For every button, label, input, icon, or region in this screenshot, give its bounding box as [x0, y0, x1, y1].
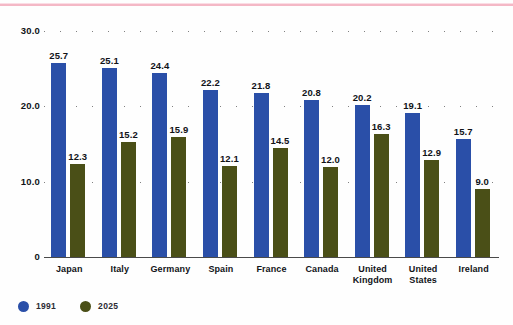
bar-value-label: 14.5: [267, 135, 294, 146]
bar-value-label: 20.8: [298, 87, 325, 98]
bar-italy-2025: [121, 142, 136, 257]
y-axis-tick-label: 0: [0, 251, 40, 262]
x-axis-line: [44, 257, 499, 258]
bar-france-2025: [273, 148, 288, 257]
bar-japan-2025: [70, 164, 85, 257]
bar-spain-2025: [222, 166, 237, 257]
legend-label: 2025: [98, 301, 118, 311]
bar-value-label: 12.9: [418, 147, 445, 158]
bar-canada-2025: [323, 167, 338, 257]
bar-value-label: 12.0: [317, 154, 344, 165]
bar-germany-2025: [171, 137, 186, 257]
bar-italy-1991: [102, 68, 117, 257]
bar-value-label: 21.8: [248, 80, 275, 91]
legend-swatch-icon: [18, 301, 29, 312]
y-axis-tick-label: 30.0: [0, 25, 40, 36]
bar-spain-1991: [203, 90, 218, 257]
bar-value-label: 22.2: [197, 77, 224, 88]
bar-value-label: 24.4: [146, 60, 173, 71]
bar-value-label: 20.2: [349, 92, 376, 103]
bar-value-label: 16.3: [368, 121, 395, 132]
bar-united-states-1991: [405, 113, 420, 257]
bar-value-label: 15.2: [115, 129, 142, 140]
bar-value-label: 9.0: [469, 176, 496, 187]
bar-value-label: 25.1: [96, 55, 123, 66]
bar-value-label: 25.7: [45, 50, 72, 61]
x-axis-category-label: Ireland: [442, 264, 505, 275]
bar-germany-1991: [152, 73, 167, 257]
y-axis-tick-label: 10.0: [0, 176, 40, 187]
legend-item-2025[interactable]: 2025: [80, 301, 118, 312]
bar-canada-1991: [304, 100, 319, 257]
y-axis: 30.020.010.00: [0, 20, 40, 258]
bar-ireland-2025: [475, 189, 490, 257]
bar-value-label: 15.7: [450, 126, 477, 137]
bar-france-1991: [254, 93, 269, 257]
bar-ireland-1991: [456, 139, 471, 257]
legend-item-1991[interactable]: 1991: [18, 301, 56, 312]
bar-united-states-2025: [424, 160, 439, 257]
legend-label: 1991: [36, 301, 56, 311]
top-rule-divider: [0, 4, 513, 6]
gridline-30.0: [44, 31, 499, 32]
chart-page: 30.020.010.00 19912025 25.712.3Japan25.1…: [0, 0, 513, 325]
bar-united-kingdom-2025: [374, 134, 389, 257]
legend-swatch-icon: [80, 301, 91, 312]
chart-legend: 19912025: [18, 298, 132, 314]
bar-value-label: 19.1: [399, 100, 426, 111]
bar-value-label: 12.1: [216, 153, 243, 164]
bar-value-label: 15.9: [165, 124, 192, 135]
y-axis-tick-label: 20.0: [0, 100, 40, 111]
bar-value-label: 12.3: [64, 151, 91, 162]
